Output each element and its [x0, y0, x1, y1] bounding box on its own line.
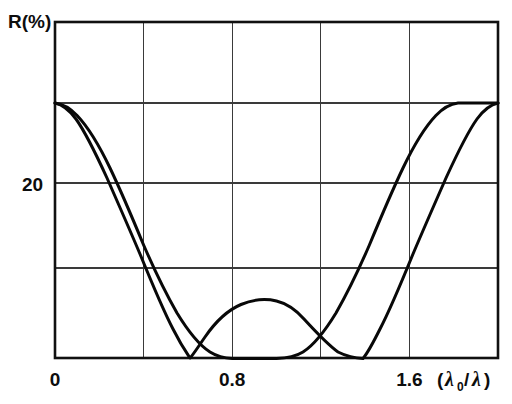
x-axis-title: ( λ 0 / λ ) [437, 368, 490, 394]
x-axis-title-close-paren: ) [484, 369, 490, 390]
x-tick-label-1.6: 1.6 [396, 369, 422, 390]
x-axis-title-lambda: λ [471, 368, 481, 390]
y-tick-label-20: 20 [22, 174, 43, 195]
x-tick-label-0: 0 [50, 369, 61, 390]
x-tick-label-0.8: 0.8 [219, 369, 245, 390]
x-axis-title-slash: / [464, 369, 470, 390]
reflectance-chart-figure: R(%) 20 0 0.8 1.6 ( λ 0 / λ ) [0, 0, 512, 404]
x-axis-title-zero-subscript: 0 [457, 380, 464, 394]
chart-canvas: R(%) 20 0 0.8 1.6 ( λ 0 / λ ) [0, 0, 512, 404]
y-axis-title: R(%) [8, 11, 51, 32]
x-axis-title-lambda-zero: λ [444, 368, 454, 390]
x-axis-title-open-paren: ( [437, 369, 444, 390]
